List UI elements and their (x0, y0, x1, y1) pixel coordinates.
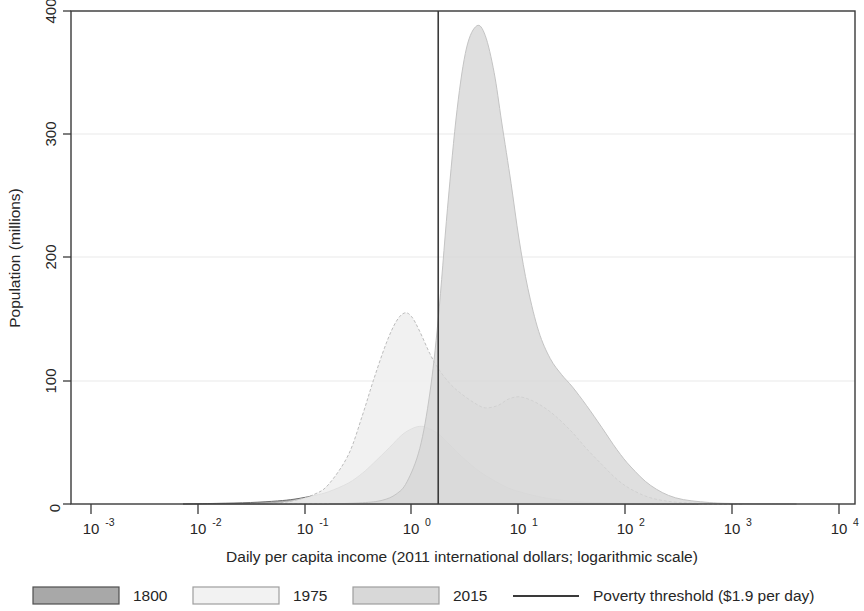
x-tick-exp-1: -2 (212, 516, 221, 528)
legend-label-poverty-threshold: Poverty threshold ($1.9 per day) (593, 587, 814, 604)
x-tick-label-1e3: 10 3 (724, 516, 752, 537)
x-tick-base-4: 10 (510, 520, 527, 537)
x-axis-title: Daily per capita income (2011 internatio… (226, 548, 698, 565)
y-tick-label-0: 0 (46, 504, 63, 512)
y-tick-label-300: 300 (42, 121, 59, 146)
x-tick-base-1: 10 (190, 520, 207, 537)
x-tick-exp-4: 1 (532, 516, 538, 528)
x-tick-exp-5: 2 (639, 516, 645, 528)
legend-label-1975: 1975 (293, 587, 327, 604)
x-tick-base-3: 10 (403, 520, 420, 537)
x-tick-base-5: 10 (617, 520, 634, 537)
x-tick-base-2: 10 (297, 520, 314, 537)
x-tick-exp-6: 3 (746, 516, 752, 528)
x-tick-label-1e-3: 10 -3 (83, 516, 115, 537)
x-tick-exp-7: 4 (853, 516, 859, 528)
legend-label-1800: 1800 (133, 587, 168, 604)
x-tick-label-1e4: 10 4 (831, 516, 859, 537)
legend-swatch-2015 (353, 587, 439, 604)
x-tick-label-1e-2: 10 -2 (190, 516, 222, 537)
y-axis-title: Population (millions) (6, 188, 23, 328)
legend-label-2015: 2015 (453, 587, 487, 604)
legend-swatch-1800 (33, 587, 119, 604)
density-areas (183, 25, 796, 504)
x-tick-label-1e0: 10 0 (403, 516, 431, 537)
x-axis: 10 -3 10 -2 10 -1 10 0 10 1 10 2 10 3 10 (83, 504, 859, 565)
y-axis: 0 100 200 300 400 Population (millions) (6, 0, 71, 512)
y-tick-label-400: 400 (42, 0, 59, 24)
y-tick-label-100: 100 (42, 368, 59, 393)
legend-swatch-1975 (193, 587, 279, 604)
chart-legend: 1800 1975 2015 Poverty threshold ($1.9 p… (33, 587, 814, 604)
x-tick-base-7: 10 (831, 520, 848, 537)
x-tick-label-1e2: 10 2 (617, 516, 645, 537)
x-tick-label-1e-1: 10 -1 (297, 516, 329, 537)
x-tick-label-1e1: 10 1 (510, 516, 538, 537)
y-tick-label-200: 200 (42, 244, 59, 269)
x-tick-exp-3: 0 (425, 516, 431, 528)
x-tick-exp-2: -1 (319, 516, 328, 528)
income-distribution-chart: 0 100 200 300 400 Population (millions) … (0, 0, 864, 611)
x-tick-base-0: 10 (83, 520, 100, 537)
x-tick-exp-0: -3 (105, 516, 114, 528)
x-tick-base-6: 10 (724, 520, 741, 537)
